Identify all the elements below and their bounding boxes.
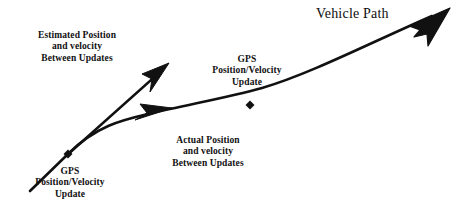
label-gps-update-start: GPS Position/Velocity Update bbox=[8, 166, 132, 200]
label-gps-mid-line1: GPS bbox=[186, 54, 308, 65]
label-estimated-line3: Between Updates bbox=[12, 53, 142, 64]
label-gps-mid-line2: Position/Velocity bbox=[186, 65, 308, 76]
label-gps-start-line2: Position/Velocity bbox=[8, 177, 132, 188]
label-actual-line2: and velocity bbox=[146, 146, 270, 157]
label-estimated-line2: and velocity bbox=[12, 41, 142, 52]
vehicle-path-arrowhead bbox=[409, 8, 450, 46]
actual-trajectory-arrowhead bbox=[135, 104, 172, 120]
label-gps-start-line1: GPS bbox=[8, 166, 132, 177]
label-gps-start-line3: Update bbox=[8, 189, 132, 200]
label-actual-line1: Actual Position bbox=[146, 135, 270, 146]
label-actual-line3: Between Updates bbox=[146, 158, 270, 169]
label-estimated-line1: Estimated Position bbox=[12, 30, 142, 41]
label-gps-mid-line3: Update bbox=[186, 77, 308, 88]
gps-update-marker-mid bbox=[246, 101, 255, 110]
estimated-trajectory-arrowhead bbox=[142, 63, 169, 92]
label-actual-position: Actual Position and velocity Between Upd… bbox=[146, 135, 270, 169]
label-estimated-position: Estimated Position and velocity Between … bbox=[12, 30, 142, 64]
gps-vehicle-path-diagram: Estimated Position and velocity Between … bbox=[0, 0, 473, 217]
label-gps-update-mid: GPS Position/Velocity Update bbox=[186, 54, 308, 88]
diagram-title: Vehicle Path bbox=[316, 6, 389, 22]
